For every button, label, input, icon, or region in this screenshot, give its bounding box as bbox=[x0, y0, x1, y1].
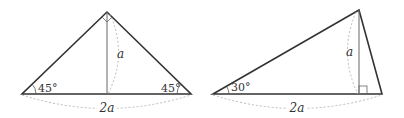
left-angle-arc bbox=[32, 84, 36, 94]
triangles-diagram: 2a a 45° 45° 2a a 30° bbox=[0, 0, 404, 118]
thirty-angle-label: 30° bbox=[231, 81, 251, 94]
right-base-label: 2a bbox=[289, 101, 305, 115]
right-height-label: a bbox=[346, 45, 353, 59]
left-base-label: 2a bbox=[99, 101, 115, 115]
right-angle-label: 45° bbox=[161, 82, 181, 95]
thirty-angle-arc bbox=[227, 87, 229, 94]
left-height-label: a bbox=[117, 47, 124, 61]
left-triangle: 2a a 45° 45° bbox=[22, 12, 191, 115]
right-angle-square-mark bbox=[359, 86, 367, 94]
right-triangle: 2a a 30° bbox=[213, 10, 382, 115]
left-angle-label: 45° bbox=[38, 82, 58, 95]
